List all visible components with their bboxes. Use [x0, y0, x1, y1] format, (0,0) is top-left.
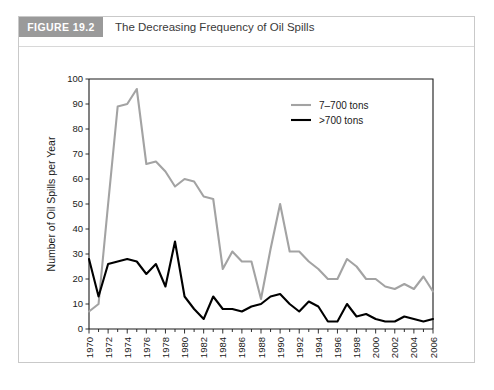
x-tick-label: 2000 — [370, 337, 381, 358]
x-tick-label: 1982 — [198, 337, 209, 358]
y-tick-label: 0 — [78, 323, 83, 334]
x-tick-label: 1984 — [217, 337, 228, 358]
y-tick-label: 80 — [72, 123, 83, 134]
y-tick-label: 60 — [72, 173, 83, 184]
figure-card: FIGURE 19.2 The Decreasing Frequency of … — [18, 16, 475, 363]
x-tick-label: 2006 — [428, 337, 439, 358]
x-tick-label: 1974 — [122, 337, 133, 358]
figure-number-badge: FIGURE 19.2 — [19, 17, 103, 37]
x-tick-label: 1994 — [313, 337, 324, 358]
y-axis-title: Number of Oil Spills per Year — [45, 136, 57, 271]
y-tick-label: 70 — [72, 148, 83, 159]
figure-header: FIGURE 19.2 The Decreasing Frequency of … — [19, 17, 474, 47]
oil-spills-line-chart: 0102030405060708090100197019721974197619… — [19, 47, 474, 363]
x-tick-label: 1978 — [160, 337, 171, 358]
x-tick-label: 1992 — [294, 337, 305, 358]
x-tick-label: 1970 — [84, 337, 95, 358]
x-tick-label: 2002 — [389, 337, 400, 358]
x-tick-label: 1990 — [275, 337, 286, 358]
y-tick-label: 30 — [72, 248, 83, 259]
x-tick-label: 1972 — [103, 337, 114, 358]
x-tick-label: 1980 — [179, 337, 190, 358]
x-tick-label: 1988 — [256, 337, 267, 358]
x-tick-label: 1996 — [332, 337, 343, 358]
data-series-line — [89, 89, 433, 312]
y-tick-label: 40 — [72, 223, 83, 234]
legend-label: 7–700 tons — [319, 100, 369, 111]
x-tick-label: 2004 — [408, 337, 419, 358]
data-series-line — [89, 242, 433, 322]
y-tick-label: 90 — [72, 98, 83, 109]
y-tick-label: 10 — [72, 298, 83, 309]
y-tick-label: 100 — [67, 73, 83, 84]
y-tick-label: 20 — [72, 273, 83, 284]
x-tick-label: 1986 — [236, 337, 247, 358]
y-tick-label: 50 — [72, 198, 83, 209]
figure-title: The Decreasing Frequency of Oil Spills — [115, 17, 314, 37]
chart-plot-area: 0102030405060708090100197019721974197619… — [19, 47, 474, 363]
legend-label: >700 tons — [319, 115, 363, 126]
x-tick-label: 1976 — [141, 337, 152, 358]
x-tick-label: 1998 — [351, 337, 362, 358]
